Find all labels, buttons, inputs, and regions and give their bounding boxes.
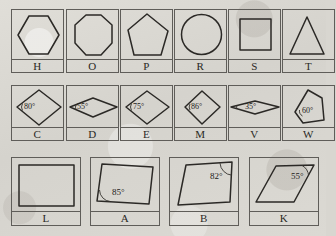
parallelogram-right-icon [91,158,161,213]
card-label-strip: O [67,59,118,72]
angle-label: 55° [291,172,304,181]
shape-card-R[interactable]: R [174,9,227,73]
card-label: C [34,129,42,140]
figure-square [229,10,280,60]
angle-label: 75° [133,103,144,111]
card-label: M [195,129,205,140]
card-label-strip: V [229,127,280,140]
card-label: V [250,129,258,140]
angle-label: 82° [210,172,223,181]
card-label: E [143,129,150,140]
rhombus-icon [121,86,174,129]
shape-card-O[interactable]: O [66,9,119,73]
card-label-strip: T [283,59,334,72]
figure-parallelogram-right: 85° [91,158,159,213]
shape-card-H[interactable]: H [11,9,64,73]
card-label: K [280,213,288,224]
figure-rhombus: 80° [12,86,63,129]
figure-flat-rhombus: 55° [67,86,118,129]
figure-pentagon [121,10,172,60]
shape-card-A[interactable]: 85° A [90,157,160,226]
slanted-parallelogram-icon [250,158,320,213]
angle-label: 60° [302,107,313,115]
figure-triangle [283,10,334,60]
card-label: P [143,61,150,72]
card-label: R [197,61,205,72]
shape-card-E[interactable]: 75° E [120,85,173,141]
rectangle-icon [12,158,82,213]
octagon-icon [67,10,120,60]
shape-card-V[interactable]: 35° V [228,85,281,141]
card-label: T [305,61,312,72]
card-label: D [88,129,96,140]
card-label-strip: C [12,127,63,140]
card-label: L [42,213,49,224]
rhombus-icon [12,86,65,129]
figure-rectangle [12,158,80,213]
figure-rhombus: 75° [121,86,172,129]
card-label: S [251,61,258,72]
card-label-strip: W [283,127,334,140]
card-label-strip: R [175,59,226,72]
shape-card-L[interactable]: L [11,157,81,226]
circle-icon [175,10,228,60]
card-label: O [88,61,96,72]
figure-circle [175,10,226,60]
shape-card-S[interactable]: S [228,9,281,73]
pentagon-icon [121,10,174,60]
angle-label: 80° [24,103,35,111]
card-label-strip: K [250,211,318,225]
card-label: B [200,213,208,224]
shape-card-M[interactable]: 86° M [174,85,227,141]
card-label: A [121,213,129,224]
shape-card-C[interactable]: 80° C [11,85,64,141]
shape-card-D[interactable]: 55° D [66,85,119,141]
figure-slanted-parallelogram: 55° [250,158,318,213]
square-icon [229,10,282,60]
card-label-strip: H [12,59,63,72]
card-label-strip: S [229,59,280,72]
card-label-strip: E [121,127,172,140]
card-label-strip: L [12,211,80,225]
figure-irregular-pentagon: 60° [283,86,334,129]
card-label: W [303,129,314,140]
flat-rhombus-icon [67,86,120,129]
shape-card-K[interactable]: 55° K [249,157,319,226]
figure-octagon [67,10,118,60]
angle-label: 85° [112,188,125,197]
card-label: H [33,61,41,72]
figure-parallelogram-left: 82° [170,158,238,213]
parallelogram-left-icon [170,158,240,213]
figure-rhombus: 86° [175,86,226,129]
figure-very-flat-rhombus: 35° [229,86,280,129]
angle-label: 55° [77,103,88,111]
shape-card-T[interactable]: T [282,9,335,73]
card-label-strip: P [121,59,172,72]
angle-label: 35° [245,103,256,111]
figure-hexagon [12,10,63,60]
card-label-strip: A [91,211,159,225]
card-label-strip: M [175,127,226,140]
triangle-icon [283,10,336,60]
hexagon-icon [12,10,65,60]
shape-card-W[interactable]: 60° W [282,85,335,141]
card-label-strip: B [170,211,238,225]
shape-card-P[interactable]: P [120,9,173,73]
card-label-strip: D [67,127,118,140]
shape-card-B[interactable]: 82° B [169,157,239,226]
angle-label: 86° [191,103,202,111]
